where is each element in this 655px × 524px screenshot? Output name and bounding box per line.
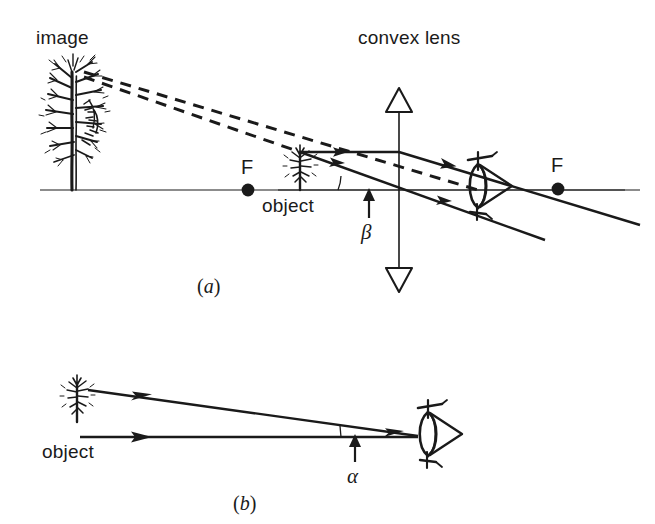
- caption-b-open: (: [233, 492, 240, 514]
- caption-a-open: (: [197, 275, 204, 297]
- caption-b: (b): [233, 493, 256, 513]
- lens-axis-arrow-down: [386, 268, 412, 292]
- optics-figure: image convex lens F F object β (a) objec…: [0, 0, 655, 524]
- focal-point-left-dot: [242, 184, 255, 197]
- dashed-ray-upper: [84, 72, 478, 190]
- label-convex-lens: convex lens: [358, 28, 461, 47]
- panel-b-graphics: [60, 375, 462, 468]
- beta-pointer-arrow: [363, 188, 375, 218]
- panel-a-graphics: [39, 54, 640, 292]
- caption-b-close: ): [250, 492, 257, 514]
- focal-point-right-dot: [552, 183, 565, 196]
- caption-a-close: ): [214, 275, 221, 297]
- caption-a-letter: a: [204, 275, 214, 297]
- image-tree: [39, 54, 110, 190]
- lens-axis-arrow-up: [386, 88, 412, 112]
- label-image: image: [36, 28, 89, 47]
- label-object-a: object: [262, 196, 314, 215]
- label-focal-left: F: [241, 157, 253, 177]
- eye-symbol-b: [418, 400, 462, 468]
- label-angle-alpha: α: [347, 466, 358, 487]
- eye-symbol-a: [468, 152, 512, 220]
- figure-canvas: [0, 0, 655, 524]
- angle-beta-arc: [338, 176, 341, 190]
- dashed-ray-lower: [84, 77, 300, 152]
- alpha-pointer-arrow: [349, 434, 361, 462]
- caption-b-letter: b: [240, 492, 250, 514]
- label-object-b: object: [42, 442, 94, 461]
- label-focal-right: F: [551, 155, 563, 175]
- ray-center-through: [300, 152, 545, 240]
- ray-arrowhead-1b: [440, 158, 457, 169]
- object-tree-b: [60, 375, 95, 422]
- ray-parallel-refracted: [399, 152, 640, 225]
- caption-a: (a): [197, 276, 220, 296]
- angle-alpha-arc: [340, 426, 341, 437]
- label-angle-beta: β: [361, 222, 371, 243]
